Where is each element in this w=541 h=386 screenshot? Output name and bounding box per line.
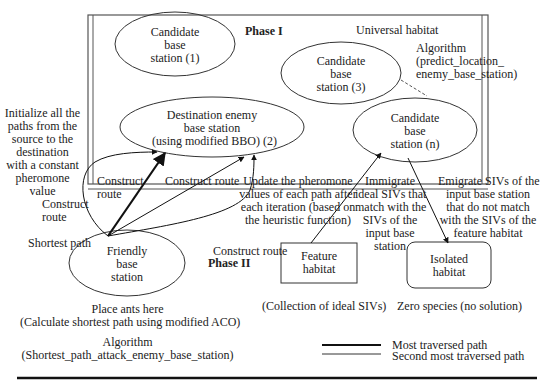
algorithm-1-label: Algorithm (predict_location_ enemy_base_… [416,42,517,81]
initialize-note: Initialize all the paths from the source… [0,107,85,198]
feature-caption: (Collection of ideal SIVs) [262,300,377,313]
emigrate-note: Emigrate SIVs of the input base station … [438,175,538,240]
node-text: station (n) [385,138,445,151]
universal-habitat-label: Universal habitat [356,24,438,37]
node-text: station (3) [311,81,371,94]
dashed-connector [401,80,427,96]
construct-route-inner: Construct route [97,175,144,201]
friendly-label: Friendly base station [97,245,157,284]
note-text: route [97,188,144,201]
node-text: station (1) [145,52,205,65]
shortest-path-label: Shortest path [28,237,91,250]
node-text: (using modified BBO) (2) [152,135,272,148]
calc-shortest-label: (Calculate shortest path using modified … [20,316,235,329]
note-text: feature habitat [438,227,538,240]
isolated-habitat-label: Isolated habitat [419,253,479,279]
node-text: habitat [419,266,479,279]
feature-habitat-label: Feature habitat [289,250,349,276]
candidate-3-label: Candidate base station (3) [311,55,371,94]
phase-1-label: Phase I [245,25,283,38]
construct-route-mid: Construct route [165,175,239,188]
destination-label: Destination enemy base station (using mo… [152,109,272,148]
note-text: station [355,240,425,253]
candidate-1-label: Candidate base station (1) [145,26,205,65]
construct-route-right: Construct route [213,245,287,258]
node-text: station [97,271,157,284]
node-text: habitat [289,263,349,276]
immigrate-note: Immigrate ideal SIVs that match with the… [355,175,425,253]
phase-2-label: Phase II [208,257,250,270]
algorithm-2-name: (Shortest_path_attack_enemy_base_station… [20,349,235,362]
candidate-n-label: Candidate base station (n) [385,112,445,151]
algorithm-1-line: enemy_base_station) [416,68,517,81]
note-text: route [42,211,89,224]
legend-second-label: Second most traversed path [392,350,524,363]
update-pheromone-note: Update the pheromone values of each path… [238,175,358,227]
construct-route-left: Construct route [42,198,89,224]
isolated-caption: Zero species (no solution) [397,300,507,313]
note-text: the heuristic function) [238,214,358,227]
